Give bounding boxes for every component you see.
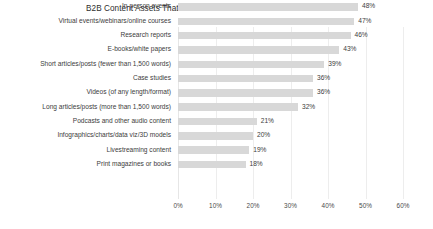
bar xyxy=(178,89,313,97)
bar xyxy=(178,118,257,126)
bar-value-label: 32% xyxy=(302,103,315,111)
bar-value-label: 48% xyxy=(362,2,375,10)
bar xyxy=(178,46,339,54)
category-label: In-person events xyxy=(122,2,171,10)
category-label: Print magazines or books xyxy=(97,160,171,168)
bar-row: Research reports46% xyxy=(0,29,433,43)
x-axis-tick-label: 0% xyxy=(173,202,182,210)
bar xyxy=(178,161,246,169)
bar-value-label: 21% xyxy=(261,117,274,125)
category-label: Virtual events/webinars/online courses xyxy=(59,17,171,25)
bar xyxy=(178,61,324,69)
bar-row: Livestreaming content19% xyxy=(0,143,433,157)
bar xyxy=(178,132,253,140)
bar xyxy=(178,146,249,154)
x-axis-tick-label: 60% xyxy=(397,202,410,210)
bar-value-label: 18% xyxy=(250,160,263,168)
bar-value-label: 39% xyxy=(328,60,341,68)
bar-chart: B2B Content Assets That Produced the Bes… xyxy=(0,0,433,229)
bar-value-label: 43% xyxy=(343,45,356,53)
category-label: Research reports xyxy=(120,31,171,39)
category-label: Case studies xyxy=(133,74,171,82)
bar-value-label: 47% xyxy=(358,17,371,25)
category-label: Livestreaming content xyxy=(106,146,171,154)
bar-value-label: 46% xyxy=(355,31,368,39)
bar-row: Podcasts and other audio content21% xyxy=(0,115,433,129)
x-axis-tick-label: 50% xyxy=(359,202,372,210)
bar-value-label: 19% xyxy=(253,146,266,154)
category-label: Podcasts and other audio content xyxy=(73,117,171,125)
bar-row: E-books/white papers43% xyxy=(0,43,433,57)
bar-value-label: 36% xyxy=(317,74,330,82)
bar-row: Videos (of any length/format)36% xyxy=(0,86,433,100)
category-label: Long articles/posts (more than 1,500 wor… xyxy=(42,103,171,111)
x-axis-tick-label: 10% xyxy=(209,202,222,210)
x-axis-tick-label: 20% xyxy=(247,202,260,210)
bar-value-label: 36% xyxy=(317,88,330,96)
category-label: Infographics/charts/data viz/3D models xyxy=(57,131,171,139)
x-axis-tick-label: 40% xyxy=(322,202,335,210)
bar xyxy=(178,32,351,40)
bar-row: Case studies36% xyxy=(0,72,433,86)
x-axis: 0%10%20%30%40%50%60% xyxy=(178,202,403,214)
category-label: Short articles/posts (fewer than 1,500 w… xyxy=(40,60,171,68)
bar-row: Print magazines or books18% xyxy=(0,158,433,172)
bar-row: In-person events48% xyxy=(0,0,433,14)
bar-row: Short articles/posts (fewer than 1,500 w… xyxy=(0,57,433,71)
x-axis-tick-label: 30% xyxy=(284,202,297,210)
bar-rows: In-person events48%Virtual events/webina… xyxy=(0,0,433,172)
bar-value-label: 20% xyxy=(257,131,270,139)
category-label: Videos (of any length/format) xyxy=(86,88,171,96)
bar xyxy=(178,18,354,26)
bar-row: Infographics/charts/data viz/3D models20… xyxy=(0,129,433,143)
bar xyxy=(178,75,313,83)
bar xyxy=(178,3,358,11)
bar-row: Long articles/posts (more than 1,500 wor… xyxy=(0,100,433,114)
category-label: E-books/white papers xyxy=(108,45,171,53)
bar xyxy=(178,103,298,111)
bar-row: Virtual events/webinars/online courses47… xyxy=(0,14,433,28)
